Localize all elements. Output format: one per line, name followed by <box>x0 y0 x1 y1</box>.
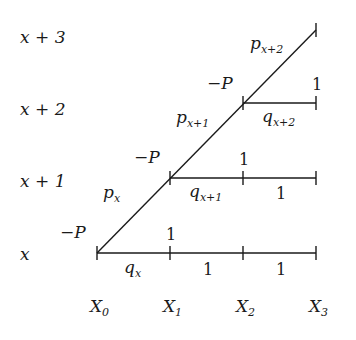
row-label-x-plus-3: x + 3 <box>20 27 65 47</box>
column-label-x0: X0 <box>88 296 109 319</box>
p-x-label: px <box>103 182 121 205</box>
column-label-x2: X2 <box>234 296 255 319</box>
seg2-row-x-value: 1 <box>203 260 213 279</box>
q-x1-label: qx+1 <box>189 181 222 204</box>
seg3-row-x1-value: 1 <box>276 184 286 203</box>
q-x-label: qx <box>124 257 142 280</box>
payoff-x2-row-x1: 1 <box>239 150 249 169</box>
row-label-x-plus-2: x + 2 <box>20 99 65 119</box>
payoff-x3-row-x2: 1 <box>312 75 322 94</box>
tree-diagram: x + 3 x + 2 x + 1 x −P −P −P px px+1 px+… <box>0 0 356 340</box>
row-label-x: x <box>20 244 30 264</box>
payoff-x1-row-x: 1 <box>166 225 176 244</box>
minus-p-label-x0: −P <box>60 222 86 242</box>
column-label-x3: X3 <box>307 296 328 319</box>
q-x2-label: qx+2 <box>262 106 295 129</box>
row-label-x-plus-1: x + 1 <box>20 171 65 191</box>
p-x1-label: px+1 <box>176 107 209 130</box>
minus-p-label-x1: −P <box>134 147 160 167</box>
column-label-x1: X1 <box>161 296 182 319</box>
p-x2-label: px+2 <box>250 33 283 56</box>
diagonal-line <box>97 30 316 253</box>
minus-p-label-x2: −P <box>207 73 233 93</box>
seg3-row-x-value: 1 <box>276 260 286 279</box>
